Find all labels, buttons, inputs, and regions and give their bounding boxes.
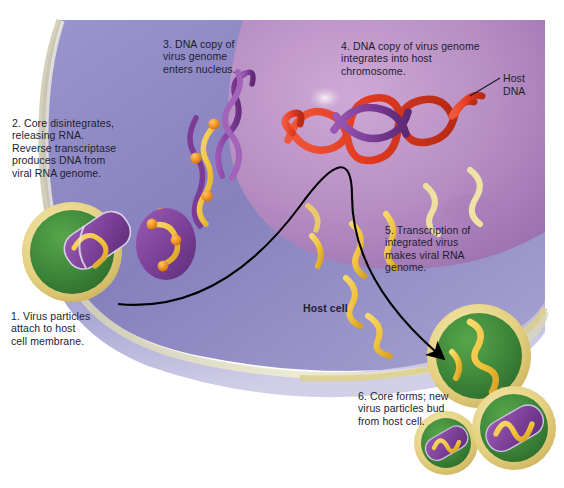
step-1-text: Virus particles attach to host cell memb…	[11, 310, 90, 347]
step-6-text: Core forms; new virus particles bud from…	[358, 390, 449, 427]
step-4-caption: 4. DNA copy of virus genome integrates i…	[341, 40, 480, 77]
step-3-number: 3.	[163, 38, 172, 50]
step-4-number: 4.	[341, 40, 350, 52]
step-6-caption: 6. Core forms; new virus particles bud f…	[358, 390, 449, 427]
figure-canvas: 1. Virus particles attach to host cell m…	[0, 0, 564, 488]
step-4-text: DNA copy of virus genome integrates into…	[341, 40, 480, 77]
step-5-number: 5.	[385, 224, 394, 236]
step-3-text: DNA copy of virus genome enters nucleus.	[163, 38, 236, 75]
entering-virus-core	[136, 208, 196, 280]
step-2-text: Core disintegrates, releasing RNA. Rever…	[12, 117, 116, 179]
step-6-number: 6.	[358, 390, 367, 402]
step-5-text: Transcription of integrated virus makes …	[385, 224, 470, 273]
step-1-caption: 1. Virus particles attach to host cell m…	[11, 310, 90, 347]
step-5-caption: 5. Transcription of integrated virus mak…	[385, 224, 470, 274]
step-2-number: 2.	[12, 117, 21, 129]
step-3-caption: 3. DNA copy of virus genome enters nucle…	[163, 38, 236, 75]
host-cell-label: Host cell	[303, 302, 348, 314]
step-2-caption: 2. Core disintegrates, releasing RNA. Re…	[12, 117, 116, 179]
step-1-number: 1.	[11, 310, 20, 322]
mature-virus-particle-large	[472, 386, 556, 470]
host-dna-label: Host DNA	[503, 72, 525, 98]
